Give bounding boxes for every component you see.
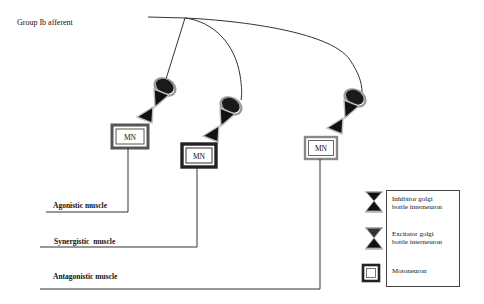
synergistic-muscle-label: Synergistic muscle bbox=[54, 237, 116, 246]
golgi-reflex-diagram: Group Ib afferent MN MN MN Agonistic m bbox=[0, 0, 484, 304]
afferent-trunk bbox=[148, 17, 185, 18]
antagonistic-muscle-label: Antagonistic muscle bbox=[53, 272, 118, 281]
interneuron-antagonistic bbox=[327, 86, 368, 134]
hourglass-icon-inhibitor bbox=[365, 192, 383, 212]
hourglass-icon-excitator bbox=[365, 228, 383, 249]
legend-inhibitor-line2: bottle interneuron bbox=[392, 203, 442, 211]
interneuron-agonistic bbox=[137, 75, 178, 123]
afferent-fibers bbox=[148, 17, 362, 100]
efferent-antagonistic bbox=[40, 159, 320, 289]
motoneuron-antagonistic: MN bbox=[305, 137, 337, 159]
afferent-branch-synergistic bbox=[185, 18, 242, 100]
mn-label: MN bbox=[193, 152, 206, 161]
legend-motoneuron: Motoneuron bbox=[392, 267, 427, 275]
double-square-icon bbox=[363, 265, 379, 281]
legend: Inhibitor golgi bottle interneuron Excit… bbox=[363, 191, 460, 287]
efferent-lines bbox=[40, 148, 320, 289]
motoneuron-agonistic: MN bbox=[112, 125, 148, 148]
afferent-branch-antagonistic bbox=[185, 18, 362, 92]
afferent-branch-agonistic bbox=[166, 18, 185, 79]
mn-label: MN bbox=[124, 133, 137, 142]
group-ib-afferent-label: Group Ib afferent bbox=[17, 18, 74, 27]
legend-excitator-line1: Excitator golgi bbox=[392, 230, 434, 238]
interneuron-synergistic bbox=[203, 94, 244, 142]
legend-excitator-line2: bottle interneuron bbox=[392, 238, 442, 246]
legend-inhibitor-line1: Inhibitor golgi bbox=[392, 195, 433, 203]
mn-label: MN bbox=[315, 144, 328, 153]
agonistic-muscle-label: Agonistic muscle bbox=[53, 201, 108, 210]
motoneuron-synergistic: MN bbox=[182, 144, 216, 167]
